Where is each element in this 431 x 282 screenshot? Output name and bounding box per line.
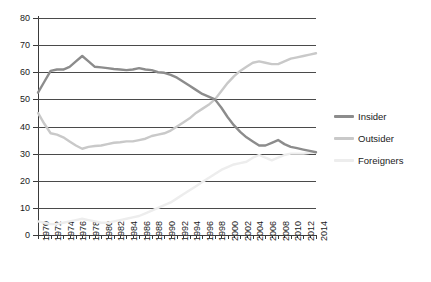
series-line-insider (38, 56, 316, 152)
legend-swatch-icon (334, 115, 354, 118)
x-axis: 1970197219741976197819801982198419861988… (38, 235, 316, 236)
x-axis-tick (316, 235, 317, 239)
y-axis-tick-label: 80 (20, 14, 30, 23)
legend-item-foreigners[interactable]: Foreigners (334, 149, 430, 171)
legend-item-insider[interactable]: Insider (334, 105, 430, 127)
y-axis-tick-label: 40 (20, 122, 30, 131)
y-axis-tick-label: 10 (20, 203, 30, 212)
legend-item-outsider[interactable]: Outsider (334, 127, 430, 149)
legend-swatch-icon (334, 137, 354, 140)
y-axis-tick-label: 0 (25, 231, 30, 240)
x-axis-tick-label: 2014 (320, 221, 329, 241)
series-line-foreigners (38, 152, 316, 224)
y-axis-tick-label: 50 (20, 95, 30, 104)
chart-legend: InsiderOutsiderForeigners (334, 105, 430, 171)
legend-label: Foreigners (358, 155, 403, 166)
y-axis-tick-label: 20 (20, 176, 30, 185)
y-axis-tick-label: 30 (20, 149, 30, 158)
y-axis-tick-label: 70 (20, 41, 30, 50)
y-axis-tick-label: 60 (20, 68, 30, 77)
legend-swatch-icon (334, 159, 354, 162)
line-chart: 01020304050607080 1970197219741976197819… (0, 0, 431, 282)
legend-label: Outsider (358, 133, 394, 144)
series-line-outsider (38, 53, 316, 148)
legend-label: Insider (358, 111, 387, 122)
series-lines (38, 18, 316, 235)
x-axis-line (38, 235, 316, 236)
plot-area: 01020304050607080 1970197219741976197819… (38, 18, 316, 235)
